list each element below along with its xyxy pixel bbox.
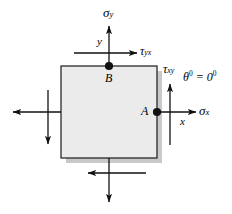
point-a-label: A (141, 105, 148, 117)
tau-yx-label: τyx (140, 45, 151, 57)
tau-xy-subscript: xy (167, 66, 174, 75)
theta-annotation: θ0 = 00 (183, 70, 216, 83)
figure-canvas: σy y τyx τxy θ0 = 00 σx x A B (0, 0, 232, 214)
stress-diagram-svg (0, 0, 232, 214)
theta-equals: = 0 (193, 70, 213, 84)
theta-value-degree-sup: 0 (213, 69, 217, 78)
sigma-y-subscript: y (109, 9, 113, 19)
point-a-marker (153, 108, 161, 116)
point-b-marker (105, 62, 113, 70)
point-b-label: B (105, 72, 112, 84)
tau-xy-label: τxy (163, 63, 174, 75)
tau-yx-subscript: yx (144, 48, 151, 57)
axis-y-label: y (97, 36, 102, 47)
axis-x-label: x (180, 116, 185, 127)
sigma-x-subscript: x (205, 107, 209, 117)
sigma-y-label: σy (103, 6, 113, 19)
sigma-x-label: σx (199, 104, 209, 117)
